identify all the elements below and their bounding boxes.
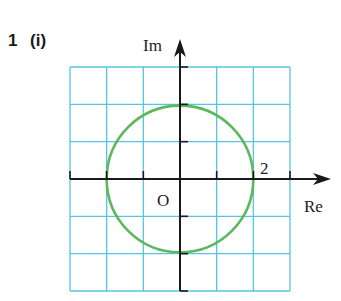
radius-annotation: 2: [260, 159, 269, 178]
question-number: 1: [8, 31, 17, 50]
real-axis-label: Re: [304, 197, 323, 216]
question-part: (i): [30, 31, 46, 50]
argand-diagram: 1 (i) Im Re O 2: [0, 0, 341, 301]
imaginary-axis-label: Im: [143, 36, 162, 55]
origin-label: O: [157, 191, 169, 210]
